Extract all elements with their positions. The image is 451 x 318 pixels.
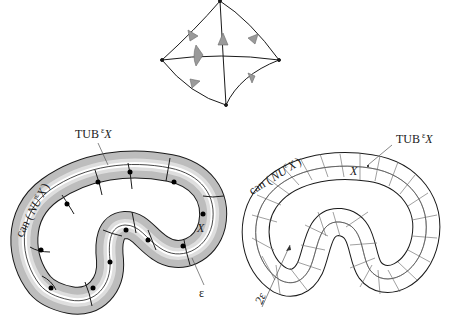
arrow-icon (248, 73, 255, 83)
tub-label: TUBεX (396, 131, 433, 146)
vertical-arc (220, 1, 226, 105)
figure-canvas: TUBεX can (NUεX) X ε (0, 0, 451, 318)
horizontal-arc (162, 56, 279, 60)
arrow-icon (190, 79, 200, 88)
right-tubular-grid: TUBεX can (NUεX) X 2ε (246, 131, 437, 307)
arrow-icon (194, 45, 203, 66)
left-tubular-neighborhood: TUBεX can (NUεX) X ε (11, 126, 224, 306)
arrow-icon (248, 34, 258, 44)
two-epsilon-label: 2ε (252, 291, 269, 306)
tub-label: TUBεX (75, 126, 112, 141)
arrow-icon (188, 30, 198, 41)
x-label: X (196, 221, 205, 235)
x-label: X (349, 164, 358, 178)
epsilon-label: ε (199, 286, 204, 300)
top-quad-diagram (161, 0, 281, 107)
arrow-icon (218, 33, 228, 45)
